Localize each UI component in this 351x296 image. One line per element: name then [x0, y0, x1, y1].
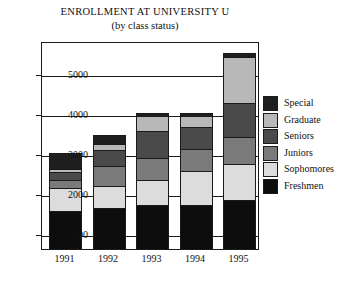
- bar-segment-freshmen: [136, 205, 169, 250]
- bar-1993: [136, 113, 169, 249]
- y-axis-tick-label: 2000: [48, 190, 88, 200]
- legend-item-freshmen[interactable]: Freshmen: [263, 178, 334, 195]
- bar-1994: [180, 113, 213, 249]
- chart-legend: SpecialGraduateSeniorsJuniorsSophomoresF…: [263, 95, 334, 194]
- legend-item-sophomores[interactable]: Sophomores: [263, 161, 334, 178]
- enrollment-bar-chart: ENROLLMENT AT UNIVERSITY U (by class sta…: [0, 0, 351, 296]
- legend-label: Freshmen: [284, 181, 323, 191]
- y-axis-tick-label: 1000: [48, 230, 88, 240]
- bar-segment-seniors: [180, 127, 213, 150]
- x-axis-tick-label: 1993: [127, 253, 177, 264]
- bar-segment-freshmen: [223, 200, 256, 250]
- legend-swatch-icon: [263, 96, 278, 111]
- bar-segment-graduate: [223, 57, 256, 104]
- y-axis-tick-mark: [36, 115, 42, 116]
- legend-label: Seniors: [284, 131, 314, 141]
- x-axis-tick-label: 1991: [40, 253, 90, 264]
- legend-swatch-icon: [263, 113, 278, 128]
- y-axis-tick-label: 3000: [48, 150, 88, 160]
- bar-segment-juniors: [136, 158, 169, 181]
- legend-label: Juniors: [284, 148, 313, 158]
- chart-subtitle: (by class status): [0, 19, 290, 32]
- y-axis-tick-label: 5000: [48, 70, 88, 80]
- bar-segment-juniors: [180, 149, 213, 172]
- bar-1995: [223, 53, 256, 249]
- x-axis-tick-label: 1992: [83, 253, 133, 264]
- bar-segment-sophomores: [223, 164, 256, 201]
- bar-segment-seniors: [93, 150, 126, 167]
- x-axis-tick-label: 1994: [170, 253, 220, 264]
- y-axis-tick-mark: [36, 195, 42, 196]
- y-axis-tick-mark: [36, 235, 42, 236]
- chart-title-block: ENROLLMENT AT UNIVERSITY U (by class sta…: [0, 5, 290, 32]
- bar-segment-juniors: [223, 137, 256, 165]
- bar-segment-sophomores: [93, 186, 126, 209]
- legend-swatch-icon: [263, 179, 278, 194]
- legend-item-graduate[interactable]: Graduate: [263, 112, 334, 129]
- legend-swatch-icon: [263, 162, 278, 177]
- bar-segment-freshmen: [93, 208, 126, 250]
- legend-label: Sophomores: [284, 164, 334, 174]
- bar-segment-sophomores: [136, 180, 169, 206]
- legend-label: Graduate: [284, 115, 321, 125]
- legend-label: Special: [284, 98, 313, 108]
- bar-segment-freshmen: [180, 205, 213, 250]
- legend-swatch-icon: [263, 146, 278, 161]
- y-axis-tick-label: 4000: [48, 110, 88, 120]
- y-axis-tick-mark: [36, 75, 42, 76]
- bar-segment-sophomores: [180, 171, 213, 206]
- y-axis-tick-mark: [36, 155, 42, 156]
- bar-segment-juniors: [93, 166, 126, 187]
- bar-1992: [93, 135, 126, 249]
- chart-title: ENROLLMENT AT UNIVERSITY U: [0, 5, 290, 18]
- bar-segment-seniors: [136, 131, 169, 159]
- bar-segment-seniors: [223, 103, 256, 138]
- legend-item-juniors[interactable]: Juniors: [263, 145, 334, 162]
- legend-swatch-icon: [263, 129, 278, 144]
- legend-item-special[interactable]: Special: [263, 95, 334, 112]
- x-axis-tick-label: 1995: [214, 253, 264, 264]
- bar-segment-graduate: [136, 116, 169, 132]
- legend-item-seniors[interactable]: Seniors: [263, 128, 334, 145]
